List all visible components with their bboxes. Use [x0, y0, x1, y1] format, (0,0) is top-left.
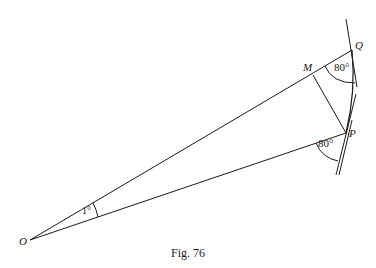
point-label-P: P: [349, 128, 356, 139]
figure-caption: Fig. 76: [0, 246, 376, 261]
angle-label-P: 80°: [318, 138, 333, 149]
line-OP: [30, 133, 346, 240]
line-MP: [313, 75, 346, 133]
point-label-M: M: [303, 62, 312, 73]
angle-label-Q: 80°: [334, 62, 349, 73]
diagram-canvas: [0, 0, 376, 268]
angle-arc-O: [93, 203, 98, 217]
angle-label-O: 1°: [82, 206, 91, 216]
line-OQ: [30, 50, 352, 240]
point-label-Q: Q: [355, 40, 363, 51]
